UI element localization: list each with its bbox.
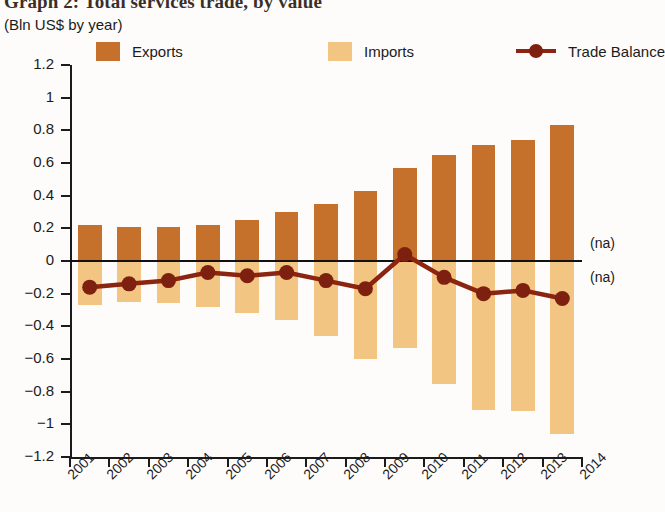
y-axis-tick [61, 64, 70, 66]
y-axis-tick [61, 227, 70, 229]
y-axis-label: −1 [2, 414, 54, 431]
trade-balance-point [358, 281, 373, 296]
trade-balance-series [70, 65, 582, 457]
na-annotation: (na) [590, 269, 615, 285]
legend-item-exports[interactable]: Exports [96, 40, 183, 62]
y-axis-label: −0.4 [2, 316, 54, 333]
legend-label: Exports [132, 43, 183, 60]
y-axis-label: 0.8 [2, 120, 54, 137]
y-axis-tick [61, 358, 70, 360]
legend-item-imports[interactable]: Imports [328, 40, 414, 62]
y-axis-tick [61, 97, 70, 99]
y-axis-tick [61, 423, 70, 425]
chart-subtitle: (Bln US$ by year) [4, 16, 122, 33]
y-axis-tick [61, 195, 70, 197]
legend-item-trade-balance[interactable]: Trade Balance [516, 40, 665, 62]
legend-swatch-icon [328, 42, 352, 61]
y-axis-tick [61, 325, 70, 327]
y-axis-tick [61, 162, 70, 164]
y-axis-label: 1.2 [2, 55, 54, 72]
y-axis-label: 1 [2, 88, 54, 105]
y-axis-label: 0.2 [2, 218, 54, 235]
trade-balance-point [476, 286, 491, 301]
trade-balance-point [161, 273, 176, 288]
y-axis-tick [61, 260, 70, 262]
y-axis-tick [61, 391, 70, 393]
chart-title: Graph 2: Total services trade, by value [4, 0, 322, 13]
y-axis-tick [61, 293, 70, 295]
trade-balance-point [82, 280, 97, 295]
y-axis-label: 0 [2, 251, 54, 268]
y-axis-label: −1.2 [2, 447, 54, 464]
y-axis-tick [61, 129, 70, 131]
chart-legend: ExportsImportsTrade Balance [96, 40, 636, 62]
trade-balance-point [200, 265, 215, 280]
y-axis-label: 0.4 [2, 186, 54, 203]
legend-label: Trade Balance [568, 43, 665, 60]
trade-balance-point [279, 265, 294, 280]
trade-balance-point [319, 273, 334, 288]
trade-balance-point [555, 291, 570, 306]
trade-balance-point [122, 276, 137, 291]
y-axis-label: −0.8 [2, 382, 54, 399]
trade-balance-point [515, 283, 530, 298]
plot-area: 1.210.80.60.40.20−0.2−0.4−0.6−0.8−1−1.22… [70, 65, 580, 457]
legend-swatch-icon [96, 42, 120, 61]
y-axis-label: 0.6 [2, 153, 54, 170]
na-annotation: (na) [590, 235, 615, 251]
y-axis-label: −0.6 [2, 349, 54, 366]
trade-balance-point [397, 247, 412, 262]
legend-label: Imports [364, 43, 414, 60]
y-axis-label: −0.2 [2, 284, 54, 301]
trade-balance-point [240, 268, 255, 283]
legend-line-marker-icon [516, 40, 556, 62]
trade-balance-point [437, 270, 452, 285]
